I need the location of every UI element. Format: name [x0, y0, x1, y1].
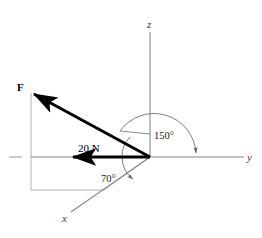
vector-diagram: F 20 N 150° 70° y z x	[0, 0, 262, 238]
angle-70-label: 70°	[101, 173, 116, 184]
x-axis-label: x	[61, 212, 67, 224]
angle-150-label: 150°	[154, 130, 174, 141]
axes-group	[9, 32, 244, 212]
z-axis-label: z	[146, 18, 152, 30]
y-axis-label: y	[246, 151, 252, 163]
force-vector-figure: F 20 N 150° 70° y z x	[0, 0, 262, 238]
x-axis	[71, 157, 150, 212]
projection-magnitude-label: 20 N	[78, 142, 100, 154]
force-vector-label: F	[17, 81, 24, 93]
arc-150-leader	[120, 131, 150, 134]
